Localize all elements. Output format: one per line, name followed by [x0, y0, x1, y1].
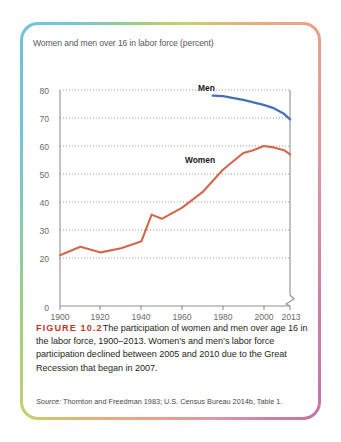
figure-source: Source: Thornton and Freedman 1983; U.S.…: [36, 397, 311, 407]
x-tick-label: 1920: [82, 312, 118, 322]
figure-number: FIGURE 10.2: [36, 323, 103, 333]
figure-caption: FIGURE 10.2The participation of women an…: [36, 322, 308, 375]
x-tick-label: 1940: [123, 312, 159, 322]
source-text: Thornton and Freedman 1983; U.S. Census …: [61, 397, 282, 406]
x-tick-marks: [60, 306, 290, 310]
x-tick-label: 1980: [205, 312, 241, 322]
gridlines: [60, 90, 290, 258]
axis-spines: [60, 90, 290, 306]
series-label-women: Women: [185, 155, 215, 165]
source-label: Source:: [36, 397, 61, 406]
series-line-men: [213, 96, 290, 120]
series-line-women: [60, 146, 290, 255]
plot-title: Women and men over 16 in labor force (pe…: [33, 38, 214, 48]
x-tick-label: 1960: [164, 312, 200, 322]
figure-inner: Women and men over 16 in labor force (pe…: [23, 25, 318, 417]
axis-break-icon: [286, 295, 294, 306]
chart-plot-area: 80 70 60 50 40 30 20 0: [33, 55, 308, 310]
series-label-men: Men: [198, 83, 215, 93]
chart-svg: [33, 55, 308, 310]
x-tick-label: 2013: [273, 312, 309, 322]
x-tick-label: 1900: [42, 312, 78, 322]
figure-card: Women and men over 16 in labor force (pe…: [20, 22, 321, 420]
